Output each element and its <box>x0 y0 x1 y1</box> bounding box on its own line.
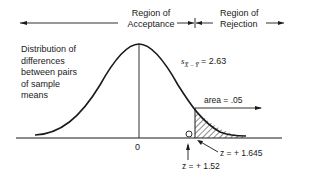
rejection-label-line2: Rejection <box>220 19 259 30</box>
arrowhead-right-icon <box>188 21 194 25</box>
arrowhead-icon <box>197 140 203 145</box>
description-line5: means <box>21 90 77 102</box>
rejection-label: Region of Rejection <box>220 8 259 30</box>
description-line3: between pairs <box>21 67 77 79</box>
critical-z-label: z = + 1.645 <box>220 148 263 159</box>
arrowhead-left-icon <box>196 21 202 25</box>
standard-error-value: = 2.63 <box>201 56 226 66</box>
area-label: area = .05 <box>204 95 243 106</box>
standard-error-label: sX̅ − Y̅ = 2.63 <box>181 56 226 71</box>
arrowhead-up-icon <box>186 143 190 150</box>
acceptance-label-line1: Region of <box>125 8 177 19</box>
distribution-description: Distribution of differences between pair… <box>21 44 77 102</box>
rejection-area <box>195 110 243 138</box>
arrowhead-right-icon <box>278 21 284 25</box>
acceptance-label: Region of Acceptance <box>125 8 177 30</box>
observed-value-marker <box>186 131 192 137</box>
observed-z-label: z = + 1.52 <box>182 161 220 172</box>
zero-label: 0 <box>135 142 140 153</box>
arrowhead-left-icon <box>20 21 27 25</box>
acceptance-label-line2: Acceptance <box>125 19 177 30</box>
rejection-label-line1: Region of <box>220 8 259 19</box>
description-line2: differences <box>21 56 77 68</box>
description-line1: Distribution of <box>21 44 77 56</box>
description-line4: of sample <box>21 79 77 91</box>
standard-error-subscript: X̅ − Y̅ <box>185 62 199 68</box>
arrowhead-right-icon <box>255 106 262 110</box>
